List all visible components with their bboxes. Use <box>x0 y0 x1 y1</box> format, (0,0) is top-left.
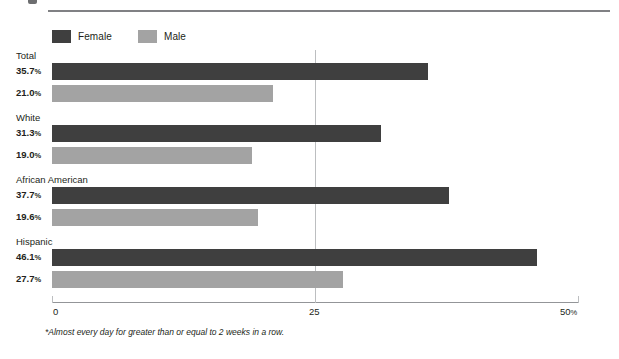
x-tick-label-50: 50% <box>560 306 577 317</box>
header-divider <box>48 10 610 12</box>
x-tick-50 <box>578 296 579 303</box>
bar-female[interactable] <box>52 125 381 142</box>
bar-value-label: 27.7% <box>16 273 41 284</box>
legend-swatch-male-icon <box>138 30 157 43</box>
bar-male[interactable] <box>52 271 343 288</box>
bar-value-label: 37.7% <box>16 189 41 200</box>
legend-label-male: Male <box>164 31 186 42</box>
page-marker-icon <box>28 0 37 4</box>
legend-item-female[interactable]: Female <box>52 30 112 43</box>
bar-group-african-american: African American 37.7% 19.6% <box>0 174 619 234</box>
group-title: Total <box>16 50 36 61</box>
bar-value-label: 46.1% <box>16 251 41 262</box>
group-title: White <box>16 112 40 123</box>
bar-female[interactable] <box>52 187 449 204</box>
bar-male[interactable] <box>52 85 273 102</box>
legend-label-female: Female <box>78 31 112 42</box>
bar-group-hispanic: Hispanic 46.1% 27.7% <box>0 236 619 296</box>
bar-value-label: 21.0% <box>16 87 41 98</box>
bar-group-white: White 31.3% 19.0% <box>0 112 619 172</box>
bar-female[interactable] <box>52 63 428 80</box>
chart-footnote: *Almost every day for greater than or eq… <box>45 327 284 337</box>
legend-item-male[interactable]: Male <box>138 30 186 43</box>
x-tick-label-0: 0 <box>53 306 58 317</box>
figure-root: Female Male Total 35.7% 21.0% White 31.3… <box>0 0 619 359</box>
plot-area: Total 35.7% 21.0% White 31.3% 19.0% <box>0 50 619 302</box>
chart-legend: Female Male <box>52 28 212 44</box>
bar-value-label: 31.3% <box>16 127 41 138</box>
bar-value-label: 19.0% <box>16 149 41 160</box>
bar-group-total: Total 35.7% 21.0% <box>0 50 619 110</box>
group-title: Hispanic <box>16 236 52 247</box>
x-tick-label-25: 25 <box>309 306 320 317</box>
legend-swatch-female-icon <box>52 30 71 43</box>
bar-male[interactable] <box>52 209 258 226</box>
bar-female[interactable] <box>52 249 537 266</box>
bar-male[interactable] <box>52 147 252 164</box>
x-tick-25 <box>315 296 316 303</box>
x-tick-0 <box>52 296 53 303</box>
bar-value-label: 19.6% <box>16 211 41 222</box>
group-title: African American <box>16 174 88 185</box>
bar-value-label: 35.7% <box>16 65 41 76</box>
